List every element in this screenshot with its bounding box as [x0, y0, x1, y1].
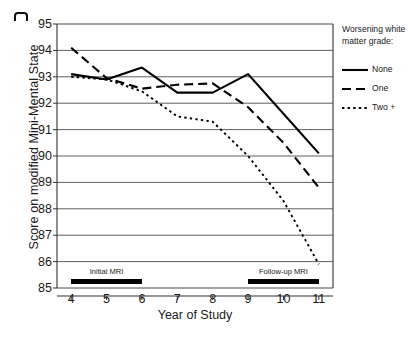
- legend-swatch-dashed: [342, 84, 368, 94]
- x-axis-tick-label: 7: [165, 292, 189, 306]
- x-axis-tick-label: 4: [59, 292, 83, 306]
- legend-item: One: [342, 79, 408, 98]
- mri-period-label: Initial MRI: [51, 267, 162, 276]
- legend-label: Two +: [372, 102, 395, 114]
- x-axis-tick-label: 5: [95, 292, 119, 306]
- x-axis-tick-label: 11: [307, 292, 331, 306]
- legend-swatch-solid: [342, 65, 368, 75]
- x-axis-tick-label: 8: [201, 292, 225, 306]
- mri-period-band: [248, 279, 319, 284]
- legend-label: None: [372, 64, 393, 76]
- series-line-two: [71, 77, 319, 264]
- legend-item: None: [342, 60, 408, 79]
- mri-period-label: Follow-up MRI: [228, 267, 339, 276]
- legend-title: Worsening white matter grade:: [342, 24, 408, 47]
- legend-items: NoneOneTwo +: [342, 60, 408, 117]
- legend-item: Two +: [342, 98, 408, 117]
- x-axis-tick-label: 6: [130, 292, 154, 306]
- mri-period-band: [71, 279, 142, 284]
- series-line-one: [71, 48, 319, 188]
- x-axis-tick-label: 9: [236, 292, 260, 306]
- legend-label: One: [372, 83, 388, 95]
- legend-swatch-dotted: [342, 103, 368, 113]
- chart-figure: Score on modified Mini-Mental State 9594…: [0, 0, 408, 339]
- x-axis-tick-label: 10: [271, 292, 295, 306]
- x-axis-title: Year of Study: [57, 308, 333, 322]
- legend: Worsening white matter grade: NoneOneTwo…: [342, 24, 408, 117]
